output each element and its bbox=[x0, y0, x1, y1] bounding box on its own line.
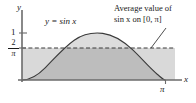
sine-curve-label: y = sin x bbox=[45, 17, 76, 26]
average-value-of-sine-figure: y x 1 2 π π y = sin x Average value of s… bbox=[0, 0, 196, 103]
y-axis-label: y bbox=[17, 3, 21, 12]
annotation-line-2: sin x on [0, π] bbox=[114, 14, 172, 25]
x-axis-label: x bbox=[184, 75, 188, 84]
y-tick-label-two-over-pi: 2 π bbox=[8, 39, 19, 58]
x-tick-label-pi: π bbox=[160, 85, 165, 94]
y-tick-label-one: 1 bbox=[11, 28, 16, 37]
fraction-numerator: 2 bbox=[8, 39, 19, 47]
annotation-leader-line bbox=[151, 28, 166, 48]
average-value-annotation: Average value of sin x on [0, π] bbox=[114, 3, 172, 25]
fraction-denominator: π bbox=[8, 49, 19, 58]
annotation-line-1: Average value of bbox=[114, 3, 172, 14]
